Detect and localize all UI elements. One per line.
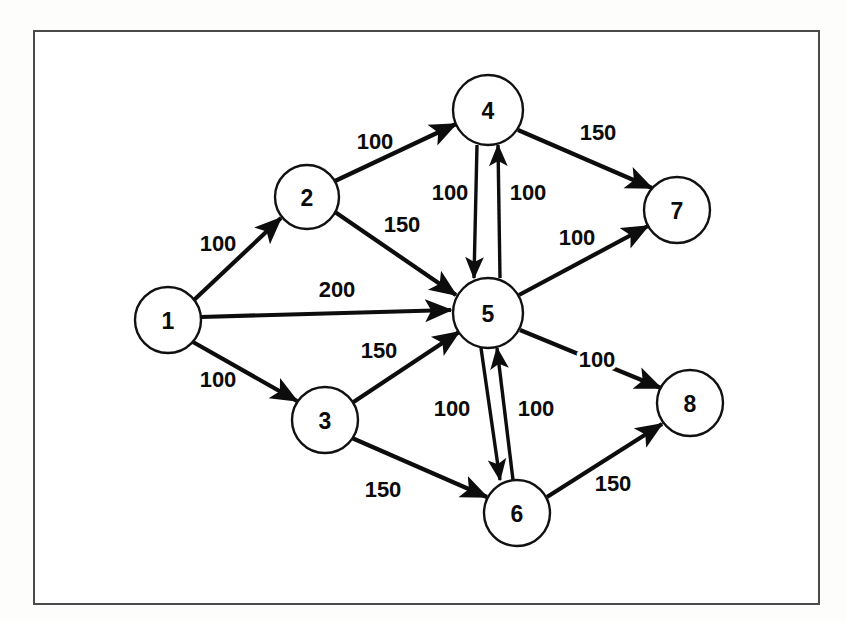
- node-3[interactable]: 3: [292, 387, 358, 453]
- node-7[interactable]: 7: [644, 177, 710, 243]
- node-8[interactable]: 8: [657, 370, 723, 436]
- node-2[interactable]: 2: [275, 165, 339, 229]
- node-5[interactable]: 5: [453, 278, 523, 348]
- edge-weight-5-8: 100: [579, 347, 616, 372]
- edge-weight-2-4: 100: [357, 129, 394, 154]
- edge-weight-6-5: 100: [518, 396, 555, 421]
- node-label-3: 3: [319, 408, 332, 434]
- edge-1-to-5: [201, 310, 451, 317]
- edge-weight-1-3: 100: [200, 367, 237, 392]
- network-graph: 12345678 1001002002001001001001001501501…: [0, 0, 846, 621]
- node-label-8: 8: [684, 391, 697, 417]
- edges-group: [193, 124, 662, 497]
- edge-weight-1-2: 100: [200, 231, 237, 256]
- edge-5-to-6: [481, 348, 500, 480]
- diagram-page: 12345678 1001002002001001001001001501501…: [0, 0, 846, 621]
- node-6[interactable]: 6: [484, 480, 550, 546]
- edge-4-to-5: [474, 145, 477, 278]
- node-label-5: 5: [482, 301, 495, 327]
- edge-5-to-4: [498, 145, 500, 278]
- edge-weight-4-7: 150: [580, 120, 617, 145]
- node-label-6: 6: [511, 501, 524, 527]
- node-label-2: 2: [301, 185, 314, 211]
- edge-6-to-5: [497, 348, 513, 480]
- node-1[interactable]: 1: [135, 287, 201, 353]
- edge-2-to-4: [335, 124, 456, 181]
- node-label-7: 7: [671, 198, 684, 224]
- node-label-1: 1: [162, 308, 175, 334]
- edge-weight-1-5: 200: [319, 277, 356, 302]
- node-label-4: 4: [482, 98, 495, 124]
- edge-weight-3-5: 150: [361, 338, 398, 363]
- node-4[interactable]: 4: [453, 75, 523, 145]
- edge-weight-4-5: 100: [432, 180, 469, 205]
- edge-weight-5-7: 100: [559, 225, 596, 250]
- edge-weight-5-6: 100: [434, 396, 471, 421]
- edge-weight-5-4: 100: [510, 180, 547, 205]
- edge-weight-2-5: 150: [384, 212, 421, 237]
- edge-weight-3-6: 150: [365, 477, 402, 502]
- edge-weight-6-8: 150: [595, 471, 632, 496]
